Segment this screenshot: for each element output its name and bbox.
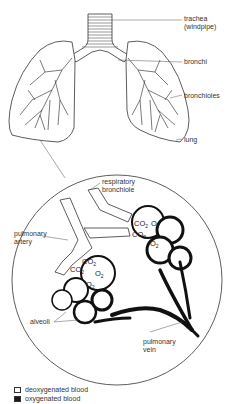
label-pulmonary-artery: pulmonary artery [14, 230, 47, 246]
label-respiratory-bronchiole: respiratory bronchiole [102, 178, 135, 194]
label-lung: lung [184, 136, 197, 144]
black-swatch-icon [14, 396, 21, 402]
trachea-shape [70, 14, 130, 62]
legend-oxygenated: oxygenated blood [14, 395, 80, 403]
left-lung-outline [9, 41, 75, 142]
right-lung-outline [126, 41, 189, 142]
label-bronchioles: bronchioles [184, 92, 220, 100]
white-swatch-icon [14, 387, 21, 393]
label-pulmonary-vein: pulmonary vein [143, 338, 176, 354]
label-trachea: trachea (windpipe) [184, 15, 216, 31]
magnified-detail-circle [12, 175, 222, 385]
label-alveoli: alveoli [30, 318, 50, 326]
label-bronchi: bronchi [184, 58, 207, 66]
legend-deoxygenated: deoxygenated blood [14, 386, 88, 394]
